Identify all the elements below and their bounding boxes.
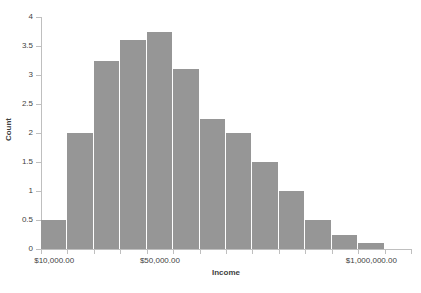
x-axis-tick-label: $50,000.00 — [140, 256, 180, 265]
y-axis-title: Count — [4, 105, 13, 155]
x-axis-tick — [305, 249, 306, 254]
bar — [226, 133, 252, 249]
bar — [358, 243, 384, 249]
x-axis-tick — [252, 249, 253, 254]
x-axis-tick — [147, 249, 148, 254]
bar — [41, 220, 67, 249]
chart-title: Household Income 2013-2014 — [0, 0, 421, 1]
y-axis-tick-label: 4 — [3, 13, 33, 21]
bar — [279, 191, 305, 249]
bar — [332, 235, 358, 250]
x-axis-tick — [385, 249, 386, 254]
x-axis-tick — [173, 249, 174, 254]
y-axis-tick-label: 0 — [3, 245, 33, 253]
x-axis-tick — [279, 249, 280, 254]
x-axis-tick — [358, 249, 359, 254]
bar — [67, 133, 93, 249]
y-axis-tick-label: 3 — [3, 71, 33, 79]
x-axis-tick-label: $10,000.00 — [34, 256, 74, 265]
x-axis-tick — [200, 249, 201, 254]
y-axis-tick-label: 1.5 — [3, 158, 33, 166]
bar — [200, 119, 226, 250]
x-axis-tick — [411, 249, 412, 254]
bar — [252, 162, 278, 249]
bar — [305, 220, 331, 249]
x-axis-tick — [67, 249, 68, 254]
bar-series — [41, 17, 411, 249]
bar — [94, 61, 120, 250]
bar — [173, 69, 199, 249]
y-axis-tick-label: 0.5 — [3, 216, 33, 224]
x-axis-tick — [41, 249, 42, 254]
x-axis-title: Income — [41, 268, 411, 277]
x-axis-tick-label: $1,000,000.00 — [346, 256, 397, 265]
histogram-chart: Household Income 2013-2014 00.511.522.53… — [0, 0, 421, 293]
y-axis-tick-label: 3.5 — [3, 42, 33, 50]
x-axis-tick — [226, 249, 227, 254]
x-axis-tick — [332, 249, 333, 254]
x-axis-tick — [94, 249, 95, 254]
x-axis-tick — [120, 249, 121, 254]
bar — [147, 32, 173, 250]
y-axis-tick-label: 1 — [3, 187, 33, 195]
bar — [120, 40, 146, 249]
